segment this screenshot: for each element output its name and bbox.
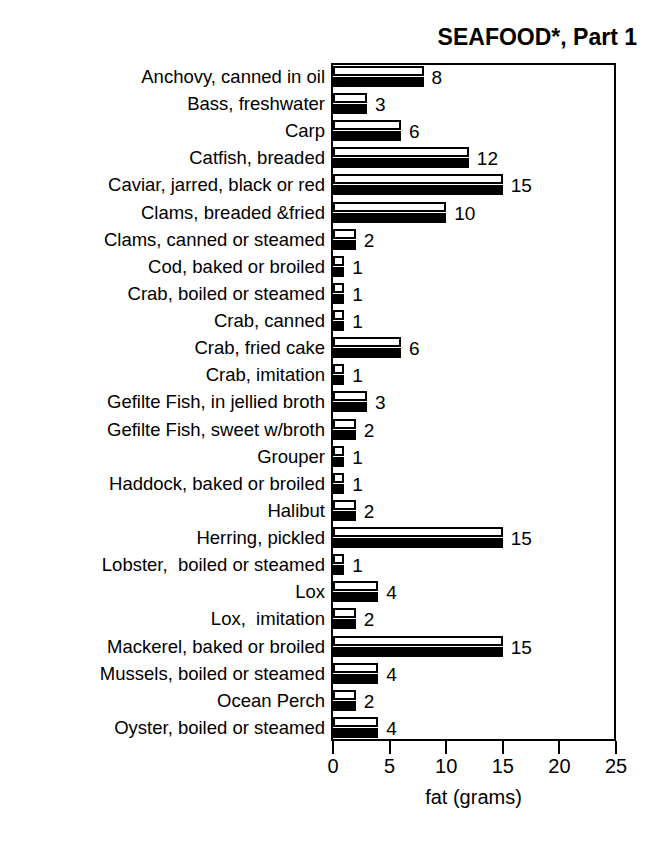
- bar-series-2: [333, 185, 503, 195]
- bar-series-1: [333, 364, 344, 374]
- bar-series-1: [333, 229, 356, 239]
- x-axis-title: fat (grams): [331, 786, 616, 809]
- chart-title: SEAFOOD*, Part 1: [0, 24, 637, 51]
- bar-value-label: 15: [511, 175, 532, 196]
- bar-value-label: 6: [409, 338, 420, 359]
- bar-series-1: [333, 391, 367, 401]
- seafood-fat-bar-chart: SEAFOOD*, Part 1 Anchovy, canned in oil8…: [0, 0, 666, 845]
- bar-row: Crab, imitation1: [0, 361, 666, 389]
- x-axis-tick: [445, 741, 447, 754]
- x-axis-tick-label: 0: [327, 755, 338, 778]
- bar-row: Oyster, boiled or steamed4: [0, 714, 666, 742]
- bar-series-2: [333, 430, 356, 440]
- bar-row: Herring, pickled15: [0, 524, 666, 552]
- category-label: Gefilte Fish, sweet w/broth: [107, 419, 325, 440]
- bar-row: Clams, canned or steamed2: [0, 226, 666, 254]
- bar-series-1: [333, 419, 356, 429]
- bar-row: Cod, baked or broiled1: [0, 253, 666, 281]
- bar-series-1: [333, 473, 344, 483]
- bar-value-label: 1: [352, 311, 363, 332]
- x-axis-tick-label: 25: [605, 755, 627, 778]
- bar-value-label: 8: [432, 67, 443, 88]
- bar-series-2: [333, 647, 503, 657]
- bar-value-label: 2: [364, 230, 375, 251]
- bar-row: Bass, freshwater3: [0, 90, 666, 118]
- bar-series-1: [333, 527, 503, 537]
- bar-series-2: [333, 701, 356, 711]
- bar-row: Haddock, baked or broiled1: [0, 470, 666, 498]
- bar-row: Grouper1: [0, 443, 666, 471]
- bar-series-2: [333, 592, 378, 602]
- x-axis-tick: [332, 741, 334, 754]
- bar-series-2: [333, 240, 356, 250]
- bar-series-2: [333, 104, 367, 114]
- bar-value-label: 2: [364, 691, 375, 712]
- bar-series-2: [333, 457, 344, 467]
- bar-value-label: 12: [477, 148, 498, 169]
- bar-value-label: 1: [352, 257, 363, 278]
- bar-series-1: [333, 337, 401, 347]
- bar-row: Lox4: [0, 578, 666, 606]
- bar-series-1: [333, 608, 356, 618]
- bar-row: Crab, canned1: [0, 307, 666, 335]
- bar-series-2: [333, 565, 344, 575]
- bar-series-1: [333, 147, 469, 157]
- x-axis-tick-label: 20: [548, 755, 570, 778]
- x-axis-tick-label: 10: [435, 755, 457, 778]
- bar-row: Carp6: [0, 117, 666, 145]
- bar-series-1: [333, 283, 344, 293]
- bar-series-1: [333, 256, 344, 266]
- category-label: Ocean Perch: [217, 690, 325, 711]
- category-label: Catfish, breaded: [189, 147, 325, 168]
- category-label: Haddock, baked or broiled: [109, 473, 325, 494]
- bar-series-2: [333, 619, 356, 629]
- bar-row: Halibut2: [0, 497, 666, 525]
- bar-series-2: [333, 213, 446, 223]
- category-label: Grouper: [257, 446, 325, 467]
- bar-series-1: [333, 554, 344, 564]
- category-label: Caviar, jarred, black or red: [108, 174, 325, 195]
- bar-series-1: [333, 66, 424, 76]
- bar-row: Lobster, boiled or steamed1: [0, 551, 666, 579]
- bar-series-1: [333, 446, 344, 456]
- bar-value-label: 1: [352, 447, 363, 468]
- bar-value-label: 2: [364, 501, 375, 522]
- bar-series-2: [333, 77, 424, 87]
- bar-series-2: [333, 511, 356, 521]
- category-label: Gefilte Fish, in jellied broth: [107, 391, 325, 412]
- x-axis-tick: [502, 741, 504, 754]
- bar-series-2: [333, 402, 367, 412]
- bar-value-label: 6: [409, 121, 420, 142]
- x-axis-tick-label: 15: [492, 755, 514, 778]
- bar-value-label: 2: [364, 420, 375, 441]
- category-label: Crab, boiled or steamed: [128, 283, 325, 304]
- bar-series-2: [333, 538, 503, 548]
- bar-series-1: [333, 717, 378, 727]
- bar-series-1: [333, 120, 401, 130]
- bar-value-label: 1: [352, 365, 363, 386]
- bar-value-label: 3: [375, 94, 386, 115]
- bar-row: Lox, imitation2: [0, 605, 666, 633]
- bar-series-2: [333, 674, 378, 684]
- bar-row: Clams, breaded &fried10: [0, 199, 666, 227]
- bar-row: Catfish, breaded12: [0, 144, 666, 172]
- bar-series-2: [333, 321, 344, 331]
- bar-series-1: [333, 636, 503, 646]
- bar-series-1: [333, 174, 503, 184]
- category-label: Lox, imitation: [211, 608, 325, 629]
- bar-series-1: [333, 310, 344, 320]
- category-label: Clams, canned or steamed: [104, 229, 325, 250]
- bar-row: Crab, fried cake6: [0, 334, 666, 362]
- category-label: Halibut: [267, 500, 325, 521]
- bar-series-2: [333, 131, 401, 141]
- bar-series-2: [333, 267, 344, 277]
- bar-rows-container: Anchovy, canned in oil8Bass, freshwater3…: [0, 63, 666, 741]
- x-axis-tick: [389, 741, 391, 754]
- category-label: Mackerel, baked or broiled: [107, 636, 325, 657]
- category-label: Herring, pickled: [196, 527, 325, 548]
- bar-series-1: [333, 93, 367, 103]
- category-label: Clams, breaded &fried: [141, 202, 325, 223]
- bar-series-2: [333, 348, 401, 358]
- bar-series-2: [333, 728, 378, 738]
- category-label: Cod, baked or broiled: [148, 256, 325, 277]
